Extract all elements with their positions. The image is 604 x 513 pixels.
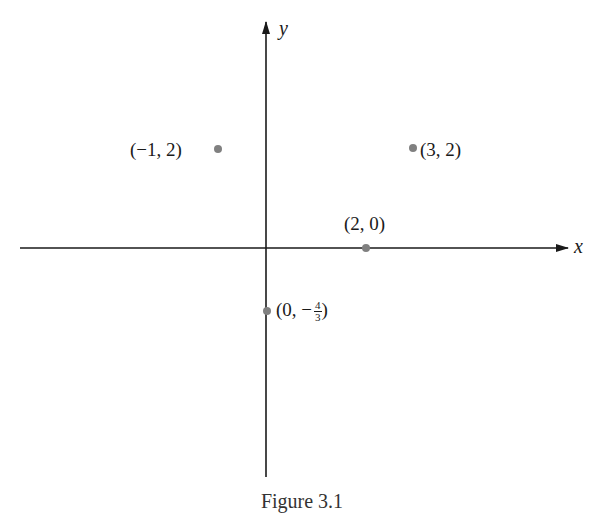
point-3-2 — [409, 144, 417, 152]
point-label-prefix: (0, − — [276, 299, 312, 320]
point-label-2-0: (2, 0) — [344, 214, 385, 233]
point-label-0-neg4thirds: (0, −43) — [276, 300, 328, 323]
figure-caption: Figure 3.1 — [0, 490, 604, 513]
point-2-0 — [362, 244, 370, 252]
point-label-3-2: (3, 2) — [420, 140, 461, 159]
y-axis-label: y — [279, 18, 288, 38]
fraction: 43 — [314, 300, 322, 323]
point-label-suffix: ) — [322, 299, 328, 320]
fraction-denominator: 3 — [314, 312, 322, 323]
point-label-neg1-2: (−1, 2) — [130, 140, 182, 159]
point-neg1-2 — [214, 145, 222, 153]
x-axis-label: x — [574, 236, 583, 256]
point-0-neg4thirds — [263, 307, 271, 315]
